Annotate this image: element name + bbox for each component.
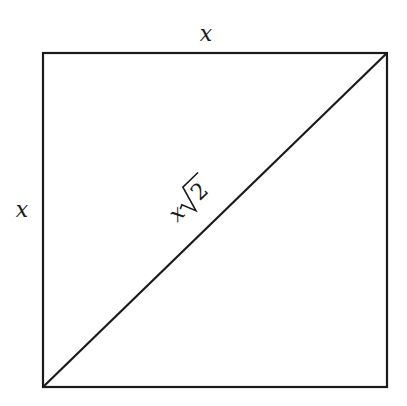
diagonal-label-variable: x	[163, 200, 190, 227]
diagonal-line	[43, 53, 387, 387]
left-side-label: x	[16, 197, 29, 222]
diagonal-label: x 2	[162, 173, 217, 227]
top-side-label: x	[200, 21, 213, 46]
square-diagonal-diagram: x x x 2	[0, 0, 407, 406]
